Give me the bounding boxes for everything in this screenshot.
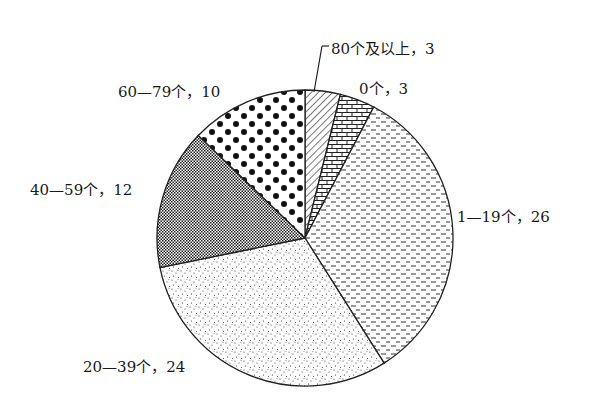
label-0: 0个，3 — [359, 77, 408, 98]
label-20-39: 20—39个，24 — [83, 355, 185, 376]
label-40-59: 40—59个，12 — [30, 178, 132, 199]
leader-line — [314, 46, 322, 92]
label-1-19: 1—19个，26 — [457, 205, 550, 226]
label-80-plus: 80个及以上，3 — [331, 37, 435, 58]
pie-slices — [157, 90, 453, 386]
label-60-79: 60—79个，10 — [118, 80, 220, 101]
